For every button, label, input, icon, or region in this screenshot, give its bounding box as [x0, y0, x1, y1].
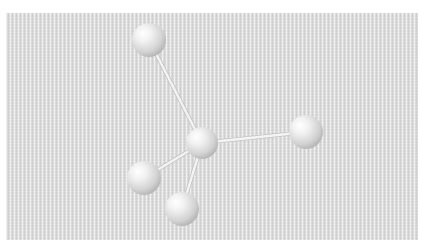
atom-bottom [165, 192, 199, 226]
atom-top [132, 23, 166, 57]
atom-center [186, 127, 218, 159]
atom-right [289, 115, 323, 149]
bonds-group [144, 40, 306, 209]
atom-lower-left [127, 161, 161, 195]
bond-center-top [149, 40, 202, 143]
molecule-model [0, 0, 421, 249]
diagram-stage [0, 0, 421, 249]
atoms-group [127, 23, 323, 226]
